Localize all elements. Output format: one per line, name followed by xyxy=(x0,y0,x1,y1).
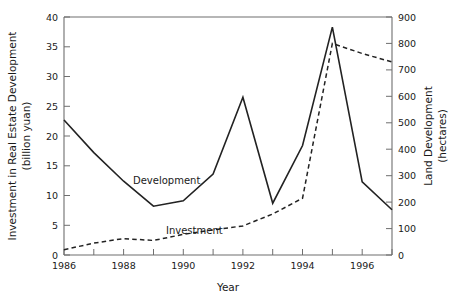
tick-label: 100 xyxy=(398,223,416,234)
tick-label: 30 xyxy=(46,71,58,82)
tick-label: 5 xyxy=(52,220,58,231)
tick-label: 800 xyxy=(398,38,416,49)
tick-label: 900 xyxy=(398,12,416,23)
y2-axis-title-line2: (hectares) xyxy=(436,109,448,163)
series-annotation-development: Development xyxy=(133,175,200,186)
tick-label: 0 xyxy=(398,250,404,261)
y-axis-title-line1: Investment in Real Estate Development xyxy=(6,32,18,241)
tick-label: 25 xyxy=(46,101,58,112)
tick-label: 300 xyxy=(398,170,416,181)
chart-background xyxy=(0,0,457,304)
chart-figure: 0 5 10 15 20 25 30 35 40 0 100 200 300 4… xyxy=(0,0,457,304)
tick-label: 1992 xyxy=(231,260,255,271)
tick-label: 0 xyxy=(52,250,58,261)
tick-label: 700 xyxy=(398,64,416,75)
tick-label: 40 xyxy=(46,12,58,23)
y2-axis-title-line1: Land Development xyxy=(422,86,434,186)
tick-label: 35 xyxy=(46,41,58,52)
tick-label: 1986 xyxy=(52,260,76,271)
tick-label: 1996 xyxy=(350,260,374,271)
tick-label: 1990 xyxy=(171,260,195,271)
tick-label: 600 xyxy=(398,91,416,102)
series-annotation-investment: Investment xyxy=(166,225,223,236)
y-axis-title-line2: (billion yuan) xyxy=(20,102,32,171)
tick-label: 1988 xyxy=(112,260,136,271)
x-axis-title: Year xyxy=(216,281,240,293)
tick-label: 20 xyxy=(46,131,58,142)
tick-label: 1994 xyxy=(290,260,314,271)
tick-label: 200 xyxy=(398,197,416,208)
tick-label: 15 xyxy=(46,160,58,171)
tick-label: 10 xyxy=(46,190,58,201)
line-chart: 0 5 10 15 20 25 30 35 40 0 100 200 300 4… xyxy=(0,0,457,304)
tick-label: 500 xyxy=(398,117,416,128)
tick-label: 400 xyxy=(398,144,416,155)
